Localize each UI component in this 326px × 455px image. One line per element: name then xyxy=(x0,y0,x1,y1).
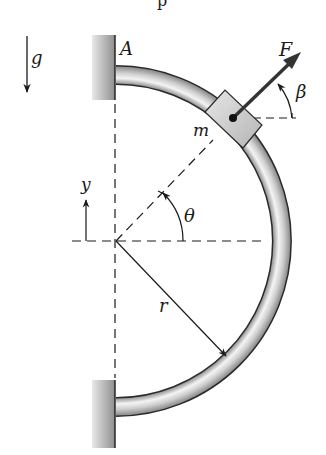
force-label: F xyxy=(278,38,293,60)
y-axis-label: y xyxy=(80,174,91,194)
radius-label: r xyxy=(159,295,169,316)
collar-on-semicircular-rod-diagram: p g A y θ r F β m xyxy=(0,0,326,455)
top-wall-support xyxy=(92,35,115,100)
gravity-label: g xyxy=(31,47,43,68)
theta-dashed-line xyxy=(116,140,213,241)
support-label-a: A xyxy=(118,38,133,59)
collar-center-dot xyxy=(229,114,237,122)
beta-arc xyxy=(278,84,292,118)
mass-label: m xyxy=(193,120,209,140)
bottom-wall-support xyxy=(92,380,115,448)
radius-arrow xyxy=(116,241,226,356)
top-text-fragment: p xyxy=(157,0,167,10)
theta-label: θ xyxy=(184,205,195,226)
beta-label: β xyxy=(295,81,306,102)
theta-arc xyxy=(163,193,183,241)
